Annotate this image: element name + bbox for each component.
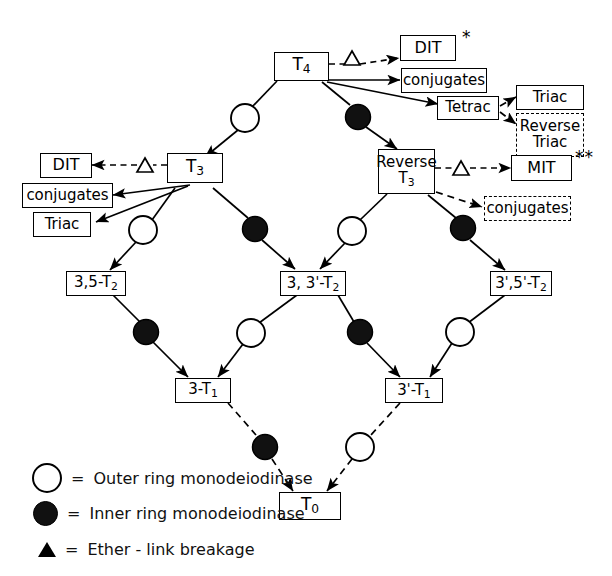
star-single-marker: * — [462, 27, 472, 47]
ether-link-triangle-icon — [38, 542, 56, 557]
node-tetrac-label: Tetrac — [445, 100, 490, 116]
node-dit-top-label: DIT — [415, 40, 442, 57]
node-conjugates-left[interactable]: conjugates — [22, 183, 113, 208]
node-t3[interactable]: T3 — [167, 153, 223, 183]
node-t4-label: T — [292, 54, 302, 74]
inner-ring-circle-icon — [33, 501, 58, 526]
node-triac-left-label: Triac — [45, 217, 80, 233]
node-t0-sub: 0 — [311, 502, 319, 516]
node-reverse-t3-line2: T3 — [398, 171, 414, 188]
node-conjugates-rt3-label: conjugates — [486, 201, 568, 217]
legend-row-outer-ring: = Outer ring monodeiodinase — [32, 463, 313, 493]
legend-equals: = — [71, 469, 84, 488]
node-reverse-triac-line2: Triac — [533, 135, 568, 151]
node-t2-3555-label: 3',5'-T2 — [495, 274, 547, 294]
pathway-diagram: T4 DIT * conjugates Tetrac Triac Reverse… — [0, 0, 612, 576]
node-t4[interactable]: T4 — [274, 52, 329, 81]
node-t2-3555[interactable]: 3',5'-T2 — [490, 271, 552, 296]
node-reverse-t3[interactable]: Reverse T3 — [378, 149, 435, 194]
node-conjugates-top-label: conjugates — [403, 73, 485, 89]
inner-ring-node — [348, 320, 373, 345]
node-reverse-triac[interactable]: Reverse Triac — [516, 113, 584, 157]
outer-ring-node — [446, 318, 474, 346]
node-mit[interactable]: MIT — [511, 155, 572, 181]
node-t4-sub: 4 — [303, 63, 311, 77]
outer-ring-node — [338, 217, 366, 245]
node-t2-33-label: 3, 3'-T2 — [287, 274, 340, 294]
legend-equals: = — [65, 540, 78, 559]
legend-row-ether-link: = Ether - link breakage — [38, 540, 255, 559]
node-triac-right[interactable]: Triac — [516, 85, 584, 110]
outer-ring-circle-icon — [32, 463, 62, 493]
node-mit-label: MIT — [527, 160, 555, 177]
node-t3-sub: 3 — [196, 164, 204, 178]
node-t1-3p[interactable]: 3'-T1 — [385, 378, 443, 403]
outer-ring-node — [237, 319, 265, 347]
star-double-marker: ** — [575, 147, 594, 167]
inner-ring-node — [346, 105, 371, 130]
node-t2-33[interactable]: 3, 3'-T2 — [280, 271, 346, 296]
node-dit-left-label: DIT — [53, 157, 80, 174]
inner-ring-node — [134, 320, 159, 345]
ether-link-triangle-icon — [453, 161, 469, 175]
ether-link-triangle-icon — [344, 51, 360, 65]
legend-equals: = — [67, 504, 80, 523]
node-dit-top[interactable]: DIT — [400, 35, 456, 61]
legend-outer-ring-text: Outer ring monodeiodinase — [93, 469, 312, 488]
legend-row-inner-ring: = Inner ring monodeiodinase — [33, 501, 305, 526]
inner-ring-node — [451, 216, 476, 241]
outer-ring-node — [346, 433, 374, 461]
node-t1-3-label: 3-T1 — [188, 382, 218, 399]
node-triac-left[interactable]: Triac — [33, 212, 91, 237]
node-t1-3p-label: 3'-T1 — [397, 381, 430, 401]
node-tetrac[interactable]: Tetrac — [437, 96, 499, 120]
outer-ring-node — [231, 104, 259, 132]
ether-link-triangle-icon — [137, 158, 153, 172]
node-dit-left[interactable]: DIT — [40, 153, 92, 178]
node-triac-right-label: Triac — [533, 90, 568, 106]
node-conjugates-left-label: conjugates — [26, 188, 108, 204]
node-t3-label: T — [186, 156, 196, 176]
outer-ring-node — [129, 216, 157, 244]
inner-ring-node — [253, 435, 278, 460]
legend-ether-link-text: Ether - link breakage — [87, 540, 254, 559]
inner-ring-node — [243, 217, 268, 242]
node-t2-35-label: 3,5-T2 — [74, 275, 118, 292]
node-t2-35[interactable]: 3,5-T2 — [66, 271, 126, 296]
node-conjugates-top[interactable]: conjugates — [401, 68, 487, 93]
node-t1-3[interactable]: 3-T1 — [175, 378, 231, 403]
legend-inner-ring-text: Inner ring monodeiodinase — [89, 504, 304, 523]
node-conjugates-rt3[interactable]: conjugates — [484, 196, 571, 221]
